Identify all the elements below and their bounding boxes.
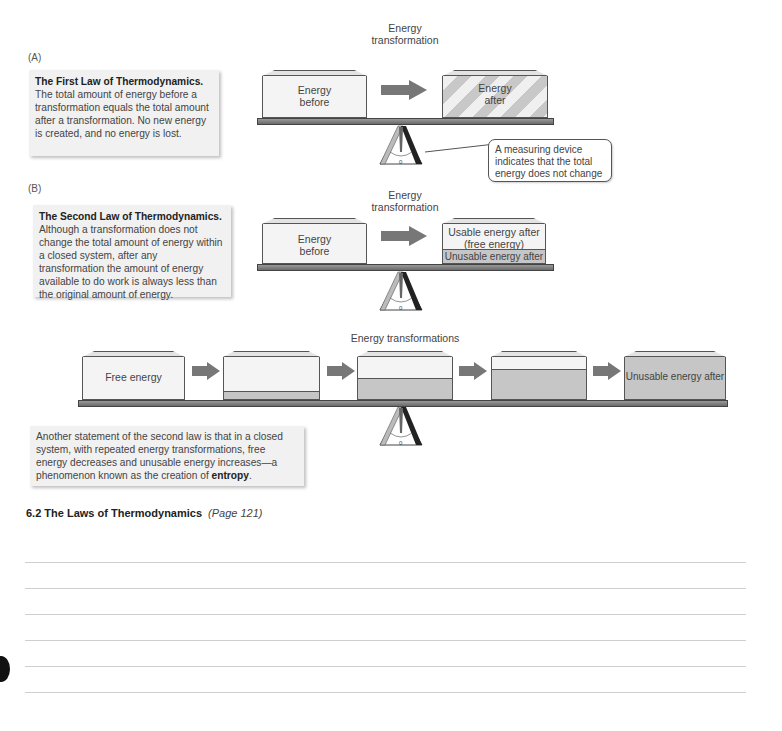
first-law-title: The First Law of Thermodynamics.	[35, 75, 212, 88]
free-energy-label: Free energy	[83, 371, 184, 383]
unusable-energy-layer	[224, 391, 319, 399]
label-line: Energy	[263, 84, 366, 96]
section-heading: 6.2 The Laws of Thermodynamics(Page 121)	[26, 507, 263, 519]
answer-line-5[interactable]	[25, 666, 746, 667]
first-law-note: The First Law of Thermodynamics. The tot…	[29, 70, 219, 156]
unusable-energy-box: Unusable energy after	[624, 357, 726, 400]
section-title: 6.2 The Laws of Thermodynamics	[26, 507, 202, 519]
second-law-note: The Second Law of Thermodynamics. Althou…	[33, 205, 231, 297]
unusable-energy-layer: Unusable energy after	[443, 249, 545, 263]
entropy-term: entropy	[212, 470, 249, 481]
page-reference: (Page 121)	[208, 507, 262, 519]
unusable-energy-label: Unusable energy after	[443, 251, 545, 263]
transformation-box-2	[357, 357, 453, 400]
second-law-title: The Second Law of Thermodynamics.	[39, 210, 224, 223]
answer-line-1[interactable]	[25, 562, 746, 563]
energy-transformation-caption-a: Energy transformation	[360, 22, 450, 46]
energy-before-box-b: Energy before	[262, 224, 367, 264]
caption-line-2: transformation	[360, 201, 450, 213]
answer-line-3[interactable]	[25, 614, 746, 615]
answer-line-4[interactable]	[25, 640, 746, 641]
energy-after-box-b: Usable energy after (free energy) Unusab…	[442, 224, 546, 264]
label-line: Energy	[443, 82, 547, 94]
energy-transformations-caption: Energy transformations	[330, 332, 480, 344]
label-line: after	[443, 94, 547, 106]
energy-before-label-b: Energy before	[263, 233, 366, 257]
callout-pointer	[425, 140, 495, 156]
label-line: Usable energy after	[443, 226, 545, 238]
right-arrow-icon	[327, 362, 355, 380]
second-law-body: Although a transformation does not chang…	[39, 224, 223, 300]
answer-line-6[interactable]	[25, 692, 746, 693]
label-line: before	[263, 245, 366, 257]
entropy-note: Another statement of the second law is t…	[30, 426, 304, 486]
measuring-device-callout: A measuring device indicates that the to…	[488, 139, 612, 182]
caption-line-1: Energy	[360, 22, 450, 34]
measuring-scale-icon: 0	[378, 124, 424, 170]
energy-transformation-caption-b: Energy transformation	[360, 189, 450, 213]
measuring-scale-icon: 0	[378, 270, 424, 316]
entropy-note-end: .	[249, 470, 252, 481]
right-arrow-icon	[381, 80, 427, 100]
right-arrow-icon	[459, 362, 487, 380]
transformation-box-3	[491, 357, 587, 400]
energy-after-box-a: Energy after	[442, 76, 548, 118]
usable-energy-label: Usable energy after (free energy)	[443, 226, 545, 250]
caption-line-2: transformation	[360, 34, 450, 46]
energy-after-label-a: Energy after	[443, 82, 547, 106]
measuring-scale-icon: 0	[378, 405, 424, 451]
first-law-body: The total amount of energy before a tran…	[35, 89, 209, 139]
transformation-box-1	[223, 357, 320, 400]
unusable-energy-final-label: Unusable energy after	[625, 371, 725, 383]
energy-before-box-a: Energy before	[262, 76, 367, 118]
right-arrow-icon	[192, 362, 220, 380]
answer-line-2[interactable]	[25, 588, 746, 589]
panel-a-label: (A)	[28, 52, 41, 63]
panel-b-label: (B)	[28, 183, 41, 194]
free-energy-box: Free energy	[82, 357, 185, 400]
unusable-energy-layer	[358, 378, 452, 399]
caption-line-1: Energy	[360, 189, 450, 201]
right-arrow-icon	[593, 362, 621, 380]
right-arrow-icon	[381, 226, 427, 246]
hole-punch	[0, 656, 10, 682]
label-line: before	[263, 96, 366, 108]
label-line: Energy	[263, 233, 366, 245]
energy-before-label-a: Energy before	[263, 84, 366, 108]
unusable-energy-layer	[492, 369, 586, 399]
